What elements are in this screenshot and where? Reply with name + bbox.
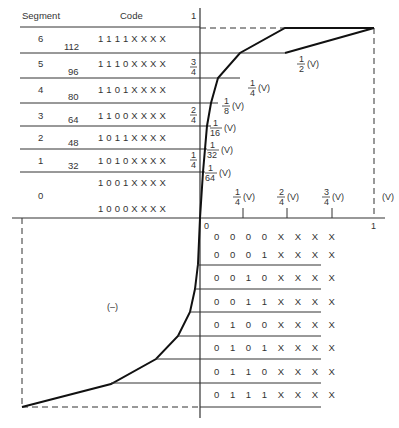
svg-text:1: 1 xyxy=(250,78,255,88)
svg-text:1: 1 xyxy=(235,187,240,197)
neg-row-4: 0 1 0 0 X X X X xyxy=(214,319,339,330)
svg-text:4: 4 xyxy=(279,197,284,207)
svg-text:8: 8 xyxy=(224,106,229,116)
svg-text:1 0 1 1 X X X X: 1 0 1 1 X X X X xyxy=(98,132,166,143)
y-frac-3-4: 3 4 xyxy=(190,57,197,77)
svg-text:1: 1 xyxy=(191,150,196,160)
row-seg-3: 3 64 1 1 0 0 X X X X xyxy=(38,110,166,125)
svg-text:(V): (V) xyxy=(332,192,344,202)
svg-text:1 1 0 0 X X X X: 1 1 0 0 X X X X xyxy=(98,110,166,121)
x-tick-3-4: 3 4 (V) xyxy=(322,187,344,207)
svg-text:(V): (V) xyxy=(243,192,255,202)
row-seg-2: 2 48 1 0 1 1 X X X X xyxy=(38,132,166,148)
svg-text:1 1 0 1 X X X X: 1 1 0 1 X X X X xyxy=(98,84,166,95)
neg-row-6: 0 1 1 0 X X X X xyxy=(214,366,339,377)
svg-text:4: 4 xyxy=(38,84,43,95)
svg-text:1: 1 xyxy=(38,155,43,166)
svg-text:(V): (V) xyxy=(221,145,233,155)
x-axis-end: 1 xyxy=(371,221,376,231)
x-axis-unit: (V) xyxy=(382,192,394,202)
y-frac-1-4: 1 4 xyxy=(190,150,197,170)
svg-text:6: 6 xyxy=(38,33,43,44)
svg-text:1: 1 xyxy=(299,54,304,64)
compression-curve-negative xyxy=(22,218,200,407)
svg-text:112: 112 xyxy=(64,41,79,52)
svg-text:4: 4 xyxy=(324,197,329,207)
row-seg-0: 0 1 0 0 1 X X X X 1 0 0 0 X X X X xyxy=(38,177,166,214)
svg-text:4: 4 xyxy=(250,88,255,98)
svg-text:96: 96 xyxy=(68,66,79,77)
row-seg-5: 5 96 1 1 1 0 X X X X xyxy=(38,58,166,77)
slope-1-8: 1 8 (V) xyxy=(222,96,244,116)
svg-text:2: 2 xyxy=(299,64,304,74)
svg-text:0: 0 xyxy=(38,190,43,201)
svg-text:32: 32 xyxy=(68,160,79,171)
negative-row-dividers xyxy=(111,265,321,407)
neg-row-3: 0 0 1 1 X X X X xyxy=(214,296,339,307)
x-tick-2-4: 2 4 (V) xyxy=(277,187,299,207)
svg-text:4: 4 xyxy=(235,197,240,207)
svg-text:48: 48 xyxy=(68,137,79,148)
x-axis-origin: 0 xyxy=(204,221,209,231)
code-header: Code xyxy=(120,10,143,21)
svg-text:(V): (V) xyxy=(232,101,244,111)
svg-text:1: 1 xyxy=(213,118,218,128)
slope-1-32: 1 32 (V) xyxy=(207,140,233,160)
x-axis-ticks xyxy=(243,208,332,218)
compression-curve-top-segment xyxy=(285,28,374,53)
row-seg-1: 1 32 1 0 1 0 X X X X xyxy=(38,155,166,171)
svg-text:4: 4 xyxy=(191,115,196,125)
svg-text:32: 32 xyxy=(207,150,217,160)
x-tick-1-4: 1 4 (V) xyxy=(233,187,255,207)
slope-1-64: 1 64 (V) xyxy=(205,163,231,183)
svg-text:(V): (V) xyxy=(307,59,319,69)
y-axis-top-label: 1 xyxy=(191,10,196,21)
svg-text:1 1 1 0 X X X X: 1 1 1 0 X X X X xyxy=(98,58,166,69)
svg-text:1: 1 xyxy=(208,163,213,173)
svg-text:1 0 1 0 X X X X: 1 0 1 0 X X X X xyxy=(98,155,166,166)
neg-row-1: 0 0 0 1 X X X X xyxy=(214,249,339,260)
svg-text:2: 2 xyxy=(191,105,196,115)
svg-text:16: 16 xyxy=(210,128,220,138)
svg-text:(V): (V) xyxy=(287,192,299,202)
svg-text:64: 64 xyxy=(68,114,79,125)
slope-1-16: 1 16 (V) xyxy=(210,118,236,138)
svg-text:2: 2 xyxy=(38,132,43,143)
svg-text:1: 1 xyxy=(210,140,215,150)
y-frac-2-4: 2 4 xyxy=(190,105,197,125)
svg-text:64: 64 xyxy=(205,173,215,183)
svg-text:1 0 0 1 X X X X: 1 0 0 1 X X X X xyxy=(98,177,166,188)
slope-1-2: 1 2 (V) xyxy=(297,54,319,74)
svg-text:1 1 1 1 X X X X: 1 1 1 1 X X X X xyxy=(98,33,166,44)
row-seg-4: 4 80 1 1 0 1 X X X X xyxy=(38,84,166,102)
svg-text:(V): (V) xyxy=(219,168,231,178)
companding-diagram: Segment Code 1 6 112 1 1 1 1 X X X X 5 9… xyxy=(0,0,399,428)
segment-header: Segment xyxy=(22,10,60,21)
svg-text:1 0 0 0 X X X X: 1 0 0 0 X X X X xyxy=(98,203,166,214)
x-axis-labels: 1 4 (V) 2 4 (V) 3 4 (V) (V) 0 1 xyxy=(204,187,394,231)
row-seg-6: 6 112 1 1 1 1 X X X X xyxy=(38,33,166,52)
svg-text:5: 5 xyxy=(38,58,43,69)
svg-text:2: 2 xyxy=(279,187,284,197)
positive-rows: 6 112 1 1 1 1 X X X X 5 96 1 1 1 0 X X X… xyxy=(38,33,166,214)
svg-text:4: 4 xyxy=(191,160,196,170)
svg-text:4: 4 xyxy=(191,67,196,77)
negative-rows: 0 0 0 0 X X X X 0 0 0 1 X X X X 0 0 1 0 … xyxy=(214,231,339,400)
neg-row-7: 0 1 1 1 X X X X xyxy=(214,389,339,400)
y-axis-fractions: 3 4 2 4 1 4 xyxy=(190,57,197,170)
negative-region-label: (–) xyxy=(107,302,118,312)
svg-text:3: 3 xyxy=(324,187,329,197)
svg-text:(V): (V) xyxy=(224,123,236,133)
svg-text:3: 3 xyxy=(38,110,43,121)
slope-1-4: 1 4 (V) xyxy=(248,78,270,98)
neg-row-0: 0 0 0 0 X X X X xyxy=(214,231,339,242)
neg-row-2: 0 0 1 0 X X X X xyxy=(214,272,339,283)
svg-text:80: 80 xyxy=(68,91,79,102)
svg-text:3: 3 xyxy=(191,57,196,67)
svg-text:1: 1 xyxy=(224,96,229,106)
svg-text:(V): (V) xyxy=(258,83,270,93)
neg-row-5: 0 1 0 1 X X X X xyxy=(214,342,339,353)
